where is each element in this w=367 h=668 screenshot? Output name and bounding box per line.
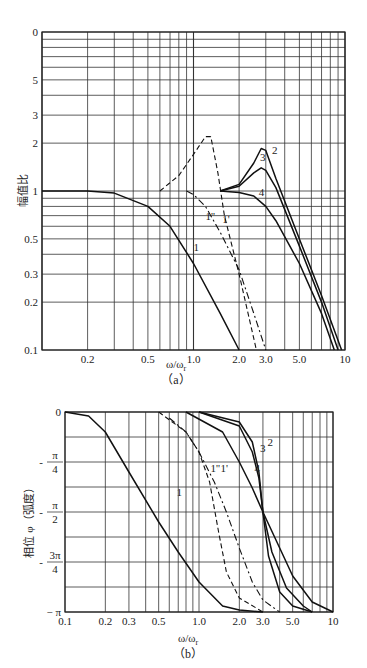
y-tick-a: 3 xyxy=(33,109,39,121)
y-tick-a: 0.2 xyxy=(24,296,38,308)
series-label: 2 xyxy=(268,436,274,448)
series-label: 1' xyxy=(221,462,229,474)
y-tick-a: 0 xyxy=(33,26,39,38)
ylabel-b: 相位 φ（弧度） xyxy=(22,482,35,557)
series-label: 3 xyxy=(260,151,266,163)
y-tick-a: 0.1 xyxy=(24,344,38,356)
y-tick-a: 0.5 xyxy=(24,233,38,245)
ylabel-a: 幅值比 xyxy=(17,174,29,207)
amplitude-ratio-chart: 053210.50.30.20.10.20.51.02.03.05.01011'… xyxy=(24,26,351,365)
x-tick-a: 5.0 xyxy=(293,353,307,365)
y-tick-b: 0 xyxy=(56,406,62,418)
y-tick-a: 0.3 xyxy=(24,268,38,280)
y-tick-b: π xyxy=(52,449,58,461)
series-label: 1 xyxy=(177,486,183,498)
series-label: 1'' xyxy=(205,210,214,222)
x-tick-b: 5.0 xyxy=(286,615,300,627)
series-line-3 xyxy=(220,168,338,350)
y-tick-b: 3π xyxy=(49,549,61,561)
x-tick-a: 1.0 xyxy=(187,353,201,365)
y-tick-a: 2 xyxy=(33,137,39,149)
y-tick-b-sign: - xyxy=(39,556,43,568)
x-tick-a: 10 xyxy=(340,353,352,365)
series-label: 1 xyxy=(194,241,200,253)
x-tick-b: 0.5 xyxy=(152,615,166,627)
y-tick-b-den: 4 xyxy=(52,463,58,475)
x-tick-a: 0.2 xyxy=(81,353,95,365)
x-tick-b: 0.1 xyxy=(58,615,72,627)
y-tick-b: π xyxy=(52,499,58,511)
x-tick-b: 2.0 xyxy=(232,615,246,627)
phase-chart: 0π4-π2-3π4-− π0.10.20.30.51.02.03.05.010… xyxy=(39,406,339,627)
x-tick-a: 3.0 xyxy=(259,353,273,365)
series-label: 1' xyxy=(222,213,230,225)
y-tick-b-den: 4 xyxy=(52,563,58,575)
series-label: 4 xyxy=(259,186,265,198)
series-label: 4 xyxy=(255,462,261,474)
x-tick-b: 0.3 xyxy=(122,615,136,627)
series-label: 2 xyxy=(272,144,278,156)
x-tick-a: 2.0 xyxy=(232,353,246,365)
caption-a: （a） xyxy=(161,373,190,387)
series-label: 3 xyxy=(260,442,266,454)
x-tick-b: 10 xyxy=(328,615,340,627)
x-tick-a: 0.5 xyxy=(141,353,155,365)
y-tick-b-den: 2 xyxy=(52,513,58,525)
y-tick-b-sign: - xyxy=(39,456,43,468)
xlabel-b: ω/ωr xyxy=(178,632,199,647)
y-tick-a: 5 xyxy=(33,74,39,86)
xlabel-a: ω/ωr xyxy=(166,358,187,373)
x-tick-b: 3.0 xyxy=(256,615,270,627)
series-label: 1'' xyxy=(211,462,220,474)
series-line-4 xyxy=(220,191,334,350)
x-tick-b: 0.2 xyxy=(98,615,112,627)
y-tick-a: 1 xyxy=(33,185,39,197)
y-tick-b-sign: - xyxy=(39,506,43,518)
series-line-1' xyxy=(160,137,257,350)
chart-canvas: 053210.50.30.20.10.20.51.02.03.05.01011'… xyxy=(0,0,367,668)
x-tick-b: 1.0 xyxy=(192,615,206,627)
caption-b: （b） xyxy=(173,647,203,661)
